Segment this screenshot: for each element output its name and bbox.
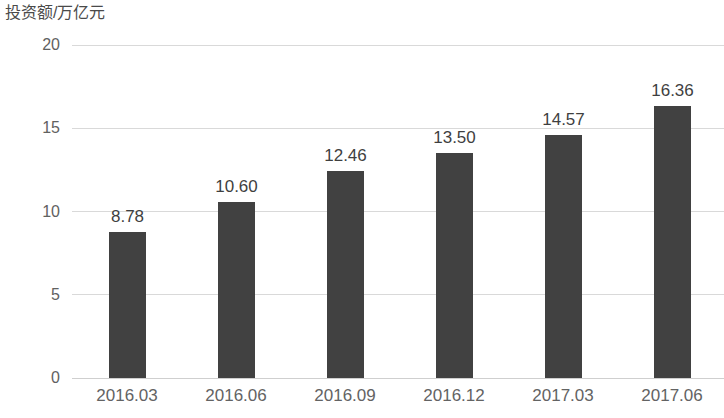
gridline [72, 128, 724, 129]
plot-area: 051015208.7810.6012.4613.5014.5716.36 [72, 45, 724, 378]
bar-chart: 投资额/万亿元 051015208.7810.6012.4613.5014.57… [0, 0, 724, 418]
bar-group[interactable]: 8.78 [109, 45, 146, 378]
bar-value-label: 13.50 [400, 129, 510, 147]
y-tick-label: 10 [0, 204, 60, 220]
x-tick-label: 2016.03 [67, 386, 187, 406]
bar-group[interactable]: 14.57 [545, 45, 582, 378]
y-tick-label: 5 [0, 287, 60, 303]
x-tick-label: 2017.03 [503, 386, 623, 406]
bar-value-label: 8.78 [73, 208, 183, 226]
bar[interactable] [109, 232, 146, 378]
gridline [72, 294, 724, 295]
bar-value-label: 10.60 [182, 178, 292, 196]
y-tick-label: 20 [0, 37, 60, 53]
bar[interactable] [218, 202, 255, 378]
bar-group[interactable]: 12.46 [327, 45, 364, 378]
x-tick-label: 2016.09 [285, 386, 405, 406]
gridline [72, 45, 724, 46]
bar[interactable] [545, 135, 582, 378]
bar-value-label: 14.57 [509, 111, 619, 129]
x-tick-label: 2016.12 [394, 386, 514, 406]
y-tick-label: 0 [0, 370, 60, 386]
bar-group[interactable]: 10.60 [218, 45, 255, 378]
y-axis-title: 投资额/万亿元 [5, 2, 105, 24]
gridline [72, 378, 724, 379]
bar[interactable] [436, 153, 473, 378]
bar[interactable] [327, 171, 364, 378]
bar[interactable] [654, 106, 691, 378]
x-tick-label: 2017.06 [612, 386, 724, 406]
x-tick-label: 2016.06 [176, 386, 296, 406]
y-tick-label: 15 [0, 120, 60, 136]
bar-group[interactable]: 13.50 [436, 45, 473, 378]
bar-value-label: 16.36 [618, 82, 724, 100]
bar-value-label: 12.46 [291, 147, 401, 165]
bar-group[interactable]: 16.36 [654, 45, 691, 378]
